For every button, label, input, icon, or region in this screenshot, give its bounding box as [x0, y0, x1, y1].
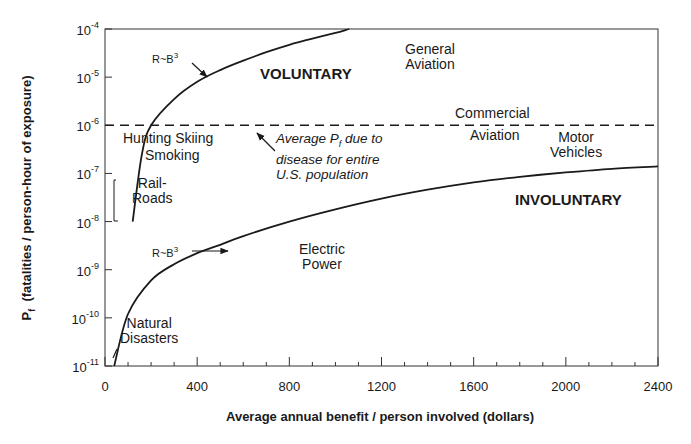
motor-vehicles-label: Motor Vehicles [550, 130, 602, 160]
general-aviation-label: General Aviation [405, 42, 455, 72]
x-tick-label: 1600 [449, 380, 499, 393]
rb-top-arrow [192, 63, 207, 77]
disease-note-arrow [257, 133, 275, 151]
x-tick-label: 2400 [633, 380, 683, 393]
involuntary-region-label: INVOLUNTARY [515, 192, 622, 207]
smoking-label: Smoking [145, 148, 199, 163]
natural-disasters-label: Natural Disasters [120, 316, 178, 346]
y-tick-label: 10-6 [59, 119, 99, 133]
disease-average-note: Average Pf due to disease for entire U.S… [276, 131, 383, 182]
x-tick-label: 800 [264, 380, 314, 393]
x-tick-label: 400 [172, 380, 222, 393]
hunting-skiing-label: Hunting Skiing [123, 131, 213, 146]
commercial-aviation-label-top: Commercial [455, 106, 530, 121]
y-tick-label: 10-5 [59, 71, 99, 85]
annotation-arrows [113, 63, 275, 358]
x-tick-label: 1200 [357, 380, 407, 393]
x-axis-title: Average annual benefit / person involved… [100, 410, 660, 423]
y-tick-label: 10-4 [59, 23, 99, 37]
y-tick-label: 10-10 [59, 312, 99, 326]
x-tick-label: 2000 [541, 380, 591, 393]
voluntary-region-label: VOLUNTARY [260, 66, 352, 81]
y-tick-label: 10-11 [59, 360, 99, 374]
y-tick-label: 10-9 [59, 264, 99, 278]
y-tick-label: 10-8 [59, 216, 99, 230]
x-axis-ticks [105, 357, 658, 366]
y-tick-label: 10-7 [59, 167, 99, 181]
railroads-bracket [114, 180, 118, 221]
commercial-aviation-label-bottom: Aviation [470, 128, 520, 143]
rb-top-label: R~B3 [152, 52, 178, 65]
y-axis-title: Pf (fatalities / person-hour of exposure… [19, 76, 37, 321]
rb-bottom-label: R~B3 [152, 246, 178, 259]
electric-power-label: Electric Power [299, 242, 345, 272]
y-axis-ticks [105, 29, 112, 366]
railroads-label: Rail- Roads [132, 176, 172, 206]
x-tick-label: 0 [80, 380, 130, 393]
